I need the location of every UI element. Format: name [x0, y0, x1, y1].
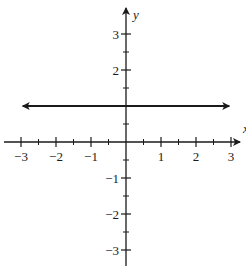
y-tick-label: −3 [105, 243, 119, 258]
y-axis-label: y [131, 7, 139, 22]
x-tick-label: 1 [158, 149, 165, 164]
x-tick-label: −2 [49, 149, 63, 164]
x-tick-label: −3 [14, 149, 28, 164]
coordinate-graph: −3−2−1123 x 32−1−2−3 y [0, 0, 246, 278]
y-tick-label: −1 [105, 171, 119, 186]
x-tick-label: 2 [193, 149, 200, 164]
x-tick-label: 3 [228, 149, 235, 164]
x-axis: −3−2−1123 x [4, 121, 246, 164]
y-tick-label: −2 [105, 207, 119, 222]
y-tick-label: 3 [113, 27, 120, 42]
x-tick-label: −1 [84, 149, 98, 164]
y-axis: 32−1−2−3 y [105, 7, 139, 266]
x-axis-label: x [242, 121, 246, 136]
y-tick-label: 2 [113, 63, 120, 78]
